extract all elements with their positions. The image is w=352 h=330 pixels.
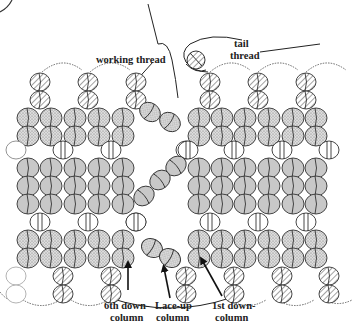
label-working-thread: working thread bbox=[96, 54, 166, 65]
bead-diagram-svg bbox=[0, 0, 352, 330]
label-sixth-down-column-1: 6th down- bbox=[104, 300, 149, 311]
label-laceup-column-1: Lace-up bbox=[155, 300, 192, 311]
label-first-down-column-1: 1st down- bbox=[212, 300, 255, 311]
beads bbox=[6, 73, 339, 303]
label-sixth-down-column-2: column bbox=[110, 312, 143, 323]
edge-arc bbox=[0, 0, 12, 12]
label-laceup-column-2: column bbox=[156, 312, 189, 323]
label-first-down-column-2: column bbox=[215, 312, 248, 323]
bead-diagram: working thread tail thread 6th down- col… bbox=[0, 0, 352, 330]
label-tail-thread-2: thread bbox=[230, 50, 260, 61]
label-tail-thread-1: tail bbox=[234, 38, 249, 49]
